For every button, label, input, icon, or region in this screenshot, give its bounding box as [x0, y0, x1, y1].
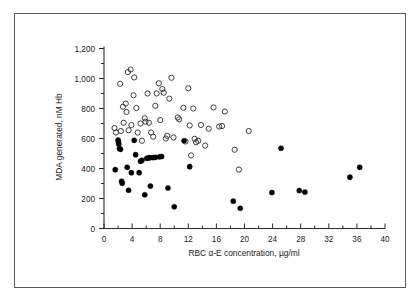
data-point [172, 204, 177, 209]
data-point [357, 165, 362, 170]
x-tick-label: 24 [268, 235, 278, 244]
data-point [142, 192, 147, 197]
data-point [181, 138, 186, 143]
x-tick-label: 8 [158, 235, 163, 244]
data-point [145, 91, 150, 96]
data-point [135, 130, 140, 135]
data-point [132, 138, 137, 143]
x-tick-label: 4 [130, 235, 135, 244]
x-tick-group [104, 224, 385, 229]
x-tick-label: 12 [184, 235, 194, 244]
data-point [148, 183, 153, 188]
y-tick-label: 200 [81, 195, 95, 204]
scatter-plot: 02004006008001,0001,200 MDA generated, n… [0, 0, 420, 305]
data-point [129, 170, 134, 175]
data-point [347, 175, 352, 180]
data-point [158, 117, 163, 122]
y-tick-label: 1,000 [75, 75, 96, 84]
x-tick-label: 40 [380, 235, 390, 244]
data-series-open-circles [112, 67, 251, 172]
data-point [129, 122, 134, 127]
data-point [211, 105, 216, 110]
data-point [123, 101, 128, 106]
data-point [187, 123, 192, 128]
data-point [246, 128, 251, 133]
data-point [120, 104, 125, 109]
y-tick-label: 0 [90, 225, 95, 234]
data-point [126, 128, 131, 133]
data-point [146, 120, 151, 125]
data-point [189, 153, 194, 158]
y-ticklabel-group: 02004006008001,0001,200 [75, 45, 96, 234]
data-point [165, 185, 170, 190]
y-axis: 02004006008001,0001,200 MDA generated, n… [54, 45, 104, 234]
data-point [143, 119, 148, 124]
data-point [169, 75, 174, 80]
data-point [124, 109, 129, 114]
data-point [302, 189, 307, 194]
x-tick-label: 16 [212, 235, 222, 244]
x-ticklabel-group: 0481216202428323640 [102, 235, 390, 244]
data-point [187, 164, 192, 169]
data-point [186, 86, 191, 91]
data-point [231, 199, 236, 204]
data-point [203, 143, 208, 148]
data-point [132, 75, 137, 80]
data-point [126, 188, 131, 193]
data-point [138, 121, 143, 126]
data-point [238, 206, 243, 211]
data-point [120, 181, 125, 186]
data-point [167, 96, 172, 101]
data-point [236, 167, 241, 172]
x-axis: 0481216202428323640 RBC α-E concentratio… [102, 224, 390, 259]
y-tick-group [99, 49, 104, 229]
y-tick-label: 400 [81, 165, 95, 174]
data-point [151, 134, 156, 139]
data-point [134, 105, 139, 110]
data-point [139, 138, 144, 143]
data-point [118, 81, 123, 86]
data-point [133, 152, 138, 157]
data-point [181, 105, 186, 110]
data-point [139, 158, 144, 163]
data-point [269, 190, 274, 195]
data-point [159, 154, 164, 159]
y-tick-label: 600 [81, 135, 95, 144]
figure-container: 02004006008001,0001,200 MDA generated, n… [0, 0, 420, 305]
data-point [153, 103, 158, 108]
data-point [131, 93, 136, 98]
data-point [222, 109, 227, 114]
x-tick-label: 36 [352, 235, 362, 244]
data-point [206, 126, 211, 131]
data-point [154, 91, 159, 96]
x-tick-label: 32 [324, 235, 334, 244]
data-point [113, 167, 118, 172]
data-point [137, 170, 142, 175]
data-point [297, 188, 302, 193]
data-point [198, 122, 203, 127]
data-series-filled-circles [113, 137, 363, 210]
data-point [278, 146, 283, 151]
data-point [156, 81, 161, 86]
data-point [191, 106, 196, 111]
data-point [118, 128, 123, 133]
x-tick-label: 28 [296, 235, 306, 244]
data-point [125, 165, 130, 170]
x-tick-label: 20 [240, 235, 250, 244]
data-point [121, 120, 126, 125]
x-tick-label: 0 [102, 235, 107, 244]
data-point [171, 135, 176, 140]
y-tick-label: 800 [81, 105, 95, 114]
data-point [118, 147, 123, 152]
x-axis-title: RBC α-E concentration, µg/ml [188, 248, 299, 258]
y-axis-title: MDA generated, nM Hb [54, 93, 64, 181]
data-point [232, 147, 237, 152]
y-tick-label: 1,200 [75, 45, 96, 54]
